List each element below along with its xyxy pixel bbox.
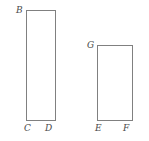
vertex-label-f: F: [123, 124, 129, 133]
geometry-figure-canvas: B C D G E F: [0, 0, 149, 141]
vertex-label-b: B: [16, 6, 23, 15]
vertex-label-e: E: [95, 124, 102, 133]
tall-rectangle-shape: [26, 10, 56, 121]
short-rectangle-shape: [97, 45, 133, 121]
vertex-label-g: G: [87, 41, 94, 50]
vertex-label-c: C: [24, 124, 31, 133]
vertex-label-d: D: [45, 124, 52, 133]
